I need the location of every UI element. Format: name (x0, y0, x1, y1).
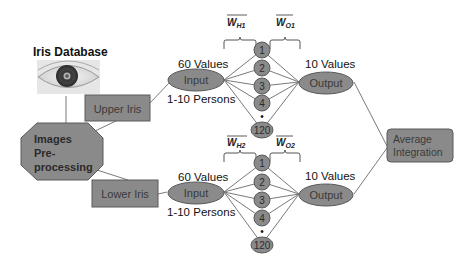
lower-iris-label: Lower Iris (101, 188, 149, 200)
preprocessing-line1: Images (34, 133, 72, 145)
preprocessing-line2: Pre- (34, 147, 56, 159)
svg-text:120: 120 (254, 125, 271, 136)
upper-hidden-node-3: 3 (254, 78, 270, 94)
lower-hidden-node-4: 4 (254, 210, 270, 226)
upper-input-values: 60 Values (178, 58, 229, 70)
lower-hidden-node-1: 1 (254, 155, 270, 171)
lower-hidden-node-2: 2 (254, 174, 270, 190)
connector-upper-output-integration (354, 82, 387, 146)
lower-weight-hidden-symbol: WH2 (227, 137, 246, 149)
svg-text:3: 3 (259, 81, 265, 92)
upper-output-label: Output (309, 77, 342, 89)
lower-output-label: Output (309, 189, 342, 201)
upper-hidden-node-4: 4 (254, 95, 270, 111)
lower-persons: 1-10 Persons (167, 206, 236, 218)
upper-weight-hidden-symbol: WH1 (227, 17, 246, 29)
upper-input-label: Input (184, 74, 208, 86)
lower-input-label: Input (184, 187, 208, 199)
lower-weight-output-symbol: WO2 (276, 137, 295, 149)
lower-hidden-node-120: 120 (251, 237, 273, 253)
upper-hidden-weight-brace (224, 37, 256, 49)
lower-output-weight-brace (270, 150, 300, 162)
connector-preproc-upper (95, 120, 118, 131)
lower-network: 60 Values Input 1-10 Persons WH2 WO2 1 2… (167, 136, 356, 253)
svg-text:3: 3 (259, 195, 265, 206)
average-integration-box: Average Integration (387, 129, 453, 162)
upper-output-values: 10 Values (305, 58, 356, 70)
connector-lower-output-integration (354, 148, 387, 194)
svg-text:2: 2 (259, 63, 265, 74)
lower-hidden-node-3: 3 (254, 192, 270, 208)
lower-hidden-ellipsis: • (260, 226, 264, 237)
svg-text:120: 120 (254, 240, 271, 251)
preprocessing-line3: processing (34, 161, 93, 173)
svg-text:1: 1 (259, 158, 265, 169)
upper-hidden-ellipsis: • (260, 111, 264, 122)
preprocessing-octagon: Images Pre- processing (21, 123, 103, 180)
connector-preproc-lower (97, 170, 128, 180)
upper-network: 60 Values Input 1-10 Persons WH1 WO1 1 2 (167, 15, 356, 138)
integration-line1: Average (393, 133, 432, 145)
svg-text:1: 1 (259, 45, 265, 56)
upper-hidden-node-2: 2 (254, 60, 270, 76)
lower-hidden-weight-brace (224, 150, 256, 162)
integration-line2: Integration (393, 146, 443, 158)
svg-text:2: 2 (259, 177, 265, 188)
upper-weight-output-symbol: WO1 (276, 17, 295, 29)
lower-output-values: 10 Values (305, 170, 356, 182)
lower-input-values: 60 Values (178, 171, 229, 183)
iris-recognition-diagram: Iris Database Upper Iris Images Pre- pro… (0, 0, 470, 265)
upper-hidden-node-120: 120 (251, 122, 273, 138)
eye-image (37, 60, 100, 94)
svg-text:4: 4 (259, 98, 265, 109)
iris-database-title: Iris Database (33, 45, 108, 59)
upper-iris-label: Upper Iris (94, 103, 142, 115)
upper-output-weight-brace (270, 37, 300, 49)
upper-hidden-node-1: 1 (254, 42, 270, 58)
svg-text:4: 4 (259, 213, 265, 224)
upper-persons: 1-10 Persons (167, 93, 236, 105)
lower-iris-box: Lower Iris (92, 180, 158, 207)
connector-lower-input (158, 192, 167, 194)
upper-iris-box: Upper Iris (85, 95, 150, 121)
